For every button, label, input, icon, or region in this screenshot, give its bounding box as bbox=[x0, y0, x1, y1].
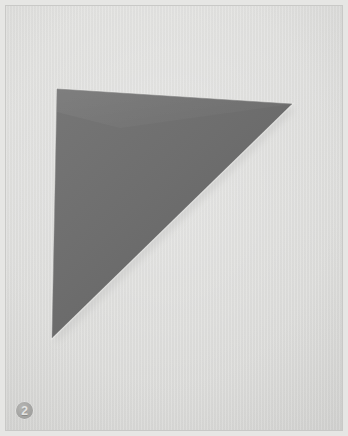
photo-vignette bbox=[6, 6, 342, 430]
paper-background bbox=[6, 6, 342, 430]
figure-number-badge: 2 bbox=[16, 402, 33, 419]
paper-texture bbox=[6, 6, 342, 430]
figure-plate: 2 bbox=[0, 0, 348, 436]
figure-number-label: 2 bbox=[21, 405, 28, 417]
